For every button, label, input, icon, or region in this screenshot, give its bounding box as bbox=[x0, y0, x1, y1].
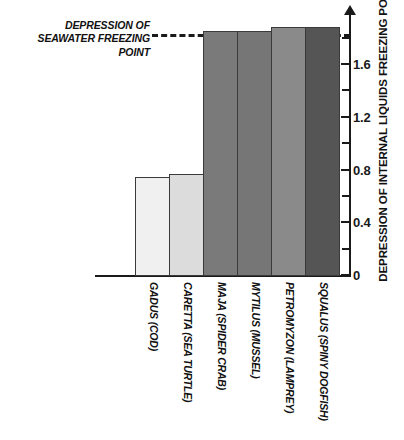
x-axis-category-label-text: SQUALUS (SPINY DOGFISH) bbox=[318, 282, 330, 421]
bar bbox=[135, 177, 170, 276]
y-axis-tick-major bbox=[341, 63, 350, 65]
bar bbox=[237, 31, 272, 276]
x-axis-category-label-text: MAJA (SPIDER CRAB) bbox=[216, 282, 228, 390]
plot-area bbox=[135, 18, 339, 276]
x-axis-category-label-text: MYTILUS (MUSSEL) bbox=[250, 282, 262, 379]
y-axis-tick-major bbox=[341, 169, 350, 171]
x-axis-category-label: CARETTA (SEA TURTLE) bbox=[169, 280, 203, 438]
y-axis-tick-major bbox=[341, 274, 350, 276]
x-axis-category-label: GADUS (COD) bbox=[135, 280, 169, 438]
bar bbox=[305, 27, 340, 276]
x-axis-category-label: MYTILUS (MUSSEL) bbox=[237, 280, 271, 438]
x-axis-category-label: SQUALUS (SPINY DOGFISH) bbox=[305, 280, 339, 438]
y-axis-tick-major bbox=[341, 116, 350, 118]
freezing-point-bar-chart: DEPRESSION OF SEAWATER FREEZING POINT 00… bbox=[0, 0, 404, 440]
y-axis-tick-minor bbox=[342, 142, 350, 144]
y-axis-tick-major bbox=[341, 221, 350, 223]
y-axis-tick-label: 0 bbox=[353, 268, 360, 283]
y-axis-tick-label: 1.6 bbox=[353, 57, 370, 72]
y-axis-arrow-icon bbox=[344, 5, 356, 15]
bars-container bbox=[135, 18, 339, 276]
y-axis-tick-minor bbox=[342, 89, 350, 91]
threshold-annotation-line1: DEPRESSION OF bbox=[4, 19, 150, 32]
y-axis-title: DEPRESSION OF INTERNAL LIQUIDS FREEZING … bbox=[371, 0, 395, 282]
y-axis-title-text: DEPRESSION OF INTERNAL LIQUIDS FREEZING … bbox=[377, 0, 389, 282]
x-axis-category-label-text: CARETTA (SEA TURTLE) bbox=[182, 282, 194, 402]
y-axis-tick-label: 0.8 bbox=[353, 162, 370, 177]
threshold-annotation-line2: SEAWATER FREEZING POINT bbox=[4, 32, 150, 59]
x-axis-category-label-text: PETROMYZON (LAMPREY) bbox=[284, 282, 296, 413]
x-axis-category-labels: GADUS (COD)CARETTA (SEA TURTLE)MAJA (SPI… bbox=[135, 280, 339, 438]
x-axis-category-label-text: GADUS (COD) bbox=[148, 282, 160, 351]
threshold-annotation-label: DEPRESSION OF SEAWATER FREEZING POINT bbox=[4, 19, 150, 59]
bar bbox=[203, 31, 238, 276]
y-axis-tick-minor bbox=[342, 248, 350, 250]
y-axis-tick-label: 1.2 bbox=[353, 109, 370, 124]
y-axis-tick-minor bbox=[342, 195, 350, 197]
x-axis-category-label: MAJA (SPIDER CRAB) bbox=[203, 280, 237, 438]
y-axis-tick-label: 0.4 bbox=[353, 215, 370, 230]
bar bbox=[271, 27, 306, 276]
y-axis-line bbox=[349, 13, 351, 277]
bar bbox=[169, 174, 204, 276]
x-axis-category-label: PETROMYZON (LAMPREY) bbox=[271, 280, 305, 438]
y-axis-tick-minor bbox=[342, 37, 350, 39]
